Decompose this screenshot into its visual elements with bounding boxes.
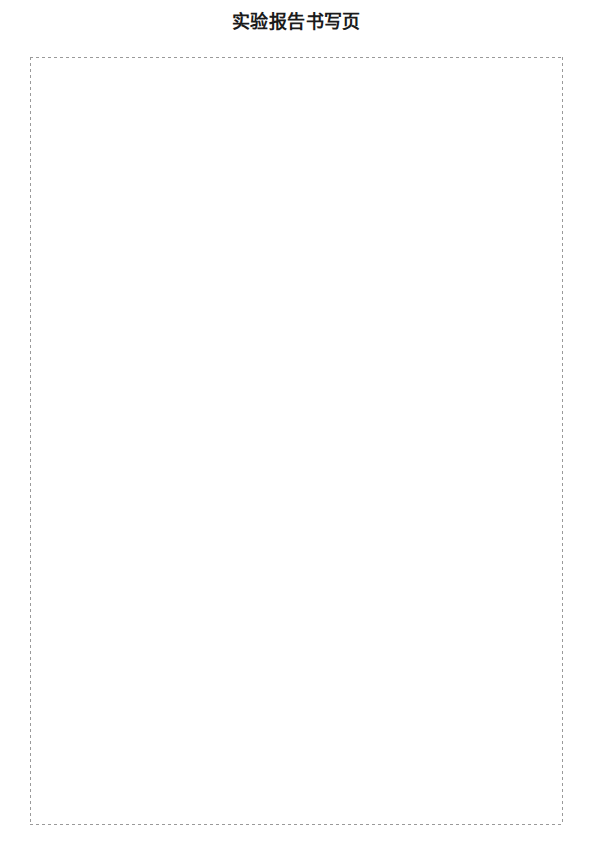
writing-area[interactable] xyxy=(31,58,562,824)
page-title: 实验报告书写页 xyxy=(0,11,593,33)
writing-frame xyxy=(30,57,563,825)
frame-border-bottom xyxy=(30,824,563,825)
experiment-report-page: 实验报告书写页 xyxy=(0,0,593,848)
frame-border-right xyxy=(562,57,563,825)
